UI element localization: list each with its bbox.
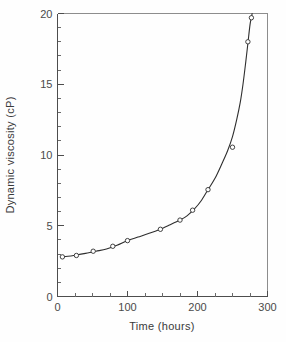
data-point-marker — [158, 227, 162, 231]
viscosity-line-chart: 0100200300 05101520 Time (hours) Dynamic… — [0, 0, 286, 342]
data-point-marker — [91, 249, 95, 253]
chart-background — [0, 0, 286, 342]
chart-figure: 0100200300 05101520 Time (hours) Dynamic… — [0, 0, 286, 342]
y-axis-title: Dynamic viscosity (cP) — [4, 96, 16, 213]
y-tick-label: 10 — [40, 149, 52, 161]
data-point-marker — [178, 218, 182, 222]
data-point-marker — [230, 145, 234, 149]
data-point-marker — [111, 244, 115, 248]
y-tick-label: 20 — [40, 8, 52, 20]
y-tick-label: 5 — [46, 220, 52, 232]
data-point-marker — [74, 253, 78, 257]
x-tick-label: 100 — [118, 301, 136, 313]
data-point-marker — [125, 238, 129, 242]
x-tick-label: 200 — [188, 301, 206, 313]
data-point-marker — [190, 208, 194, 212]
y-tick-label: 0 — [46, 291, 52, 303]
data-point-marker — [60, 255, 64, 259]
x-tick-label: 0 — [54, 301, 60, 313]
x-tick-label: 300 — [258, 301, 276, 313]
x-axis-title: Time (hours) — [129, 320, 195, 332]
data-point-marker — [249, 16, 253, 20]
data-point-marker — [206, 187, 210, 191]
data-point-marker — [246, 40, 250, 44]
y-tick-label: 15 — [40, 78, 52, 90]
